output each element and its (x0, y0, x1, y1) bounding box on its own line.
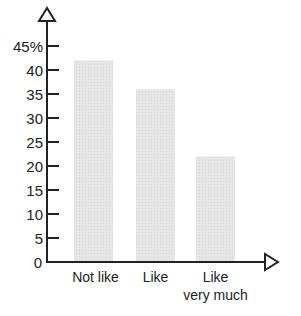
y-tick-label: 30 (26, 110, 43, 127)
x-category-label: Like (203, 269, 229, 285)
bar (136, 89, 175, 262)
bar (196, 156, 235, 262)
bar-chart: 051015202530354045% Not likeLikeLikevery… (0, 0, 301, 316)
y-tick-label: 0 (34, 254, 42, 271)
bars-group (74, 60, 235, 262)
y-tick-label: 35 (26, 86, 43, 103)
x-category-label: very much (183, 287, 248, 303)
y-tick-label: 20 (26, 158, 43, 175)
y-tick-label: 15 (26, 182, 43, 199)
y-tick-label: 25 (26, 134, 43, 151)
x-category-label: Like (143, 269, 169, 285)
y-axis-arrow-icon (39, 8, 55, 21)
y-ticks: 051015202530354045% (13, 38, 59, 271)
y-tick-label: 5 (35, 230, 43, 247)
y-tick-label: 40 (26, 62, 43, 79)
x-axis-arrow-icon (265, 254, 278, 270)
x-category-label: Not like (72, 269, 119, 285)
y-tick-label: 10 (26, 206, 43, 223)
x-category-labels: Not likeLikeLikevery much (72, 269, 248, 303)
y-tick-label: 45% (13, 38, 43, 55)
bar (74, 60, 113, 262)
